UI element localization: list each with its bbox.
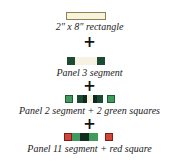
green-square [89,133,98,141]
dark-green-square [97,95,103,103]
red-square [64,133,72,141]
green-square-right [107,95,115,103]
caption-rectangle: 2" x 8" rectangle [0,21,179,32]
panel-2-segment [77,95,103,103]
green-square [72,133,80,141]
panel-11-segment [64,133,98,141]
cream-rectangle [66,12,106,20]
green-square [65,95,73,103]
red-square [105,133,113,141]
dark-green-square [67,57,75,65]
red-square-single [105,133,113,141]
panel-3-segment [67,57,105,65]
caption-panel-11: Panel 11 segment + red square [0,143,179,154]
plus-sign-1: + [0,35,179,49]
plus-sign-3: + [0,117,179,131]
green-square-left [65,95,73,103]
dark-green-square [97,57,105,65]
green-square [107,95,115,103]
plus-sign-2: + [0,79,179,93]
dark-green-square [80,133,89,141]
cream-center [75,57,97,65]
